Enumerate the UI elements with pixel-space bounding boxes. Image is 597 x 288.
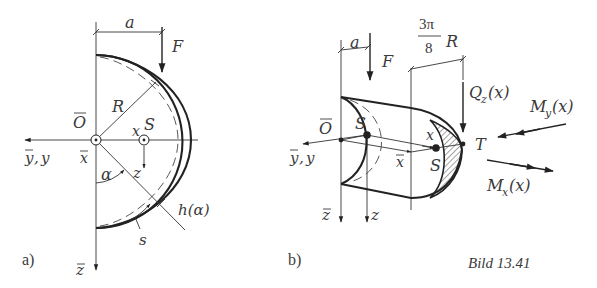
shear-qz-label: Q z (x) (469, 83, 510, 106)
z-label: z (132, 164, 141, 182)
figure-canvas: a F R O S x x y , y z α h(α) s z a) (0, 0, 597, 288)
part-a: a F R O S x x y , y z α h(α) s z a) (22, 13, 210, 279)
diagram-svg: a F R O S x x y , y z α h(α) s z a) (0, 0, 597, 288)
svg-text:3π: 3π (419, 16, 435, 32)
x-bar-label: x (80, 150, 88, 166)
dimension-a-label-b: a (350, 33, 360, 52)
svg-text:y: y (289, 149, 299, 167)
y-axis-label-b: y , y (289, 149, 315, 167)
svg-text:,: , (299, 149, 304, 167)
svg-text:(x): (x) (488, 83, 510, 102)
cut-centroid-label: S (430, 156, 441, 175)
radius-label: R (111, 97, 124, 116)
part-a-label: a) (22, 251, 34, 269)
x-label-b: x (426, 127, 434, 143)
moment-my-arrow (498, 124, 566, 137)
point-t-label: T (475, 135, 487, 154)
figure-caption: Bild 13.41 (468, 255, 531, 271)
origin-point-b (339, 138, 344, 143)
svg-text:(x): (x) (509, 176, 531, 195)
svg-text:y: y (24, 149, 34, 167)
arc-s-label: s (139, 231, 147, 249)
svg-text:y: y (40, 149, 50, 167)
origin-label-b: O (319, 119, 332, 138)
part-b: a F 3π 8 R O S x x S y , y z z T Q z (x) (288, 16, 574, 269)
cut-centroid-point (432, 144, 440, 152)
svg-text:y: y (544, 107, 552, 120)
s-leader (135, 217, 140, 229)
part-b-label: b) (288, 251, 301, 269)
svg-text:y: y (305, 149, 315, 167)
svg-text:x: x (502, 186, 509, 199)
x-label: x (132, 123, 140, 139)
svg-text:8: 8 (425, 40, 433, 56)
moment-mx-label: M x (x) (486, 176, 531, 199)
svg-text:R: R (445, 32, 458, 51)
moment-mx-arrow (487, 160, 553, 171)
dimension-3pi8r-label: 3π 8 R (418, 16, 458, 56)
moment-my-label: M y (x) (529, 97, 574, 120)
centroid-label: S (144, 115, 155, 134)
svg-text:(x): (x) (552, 97, 574, 116)
origin-label: O (73, 113, 86, 132)
point-t (461, 142, 466, 147)
centroid-label-b: S (355, 114, 366, 133)
x-bar-axis-b (341, 140, 411, 152)
force-f-label-b: F (381, 52, 394, 71)
x-bar-label-b: x (396, 154, 404, 170)
y-axis-label: y , y (24, 149, 50, 167)
dimension-a-label: a (125, 13, 135, 32)
force-f-label: F (171, 37, 184, 56)
o-to-s-line (341, 135, 367, 140)
dimension-3pi8-line (411, 59, 463, 69)
z-label-b: z (370, 206, 379, 224)
svg-text:,: , (34, 149, 39, 167)
svg-text:z: z (480, 93, 487, 106)
alpha-label: α (101, 165, 112, 184)
thickness-label: h(α) (178, 201, 210, 219)
